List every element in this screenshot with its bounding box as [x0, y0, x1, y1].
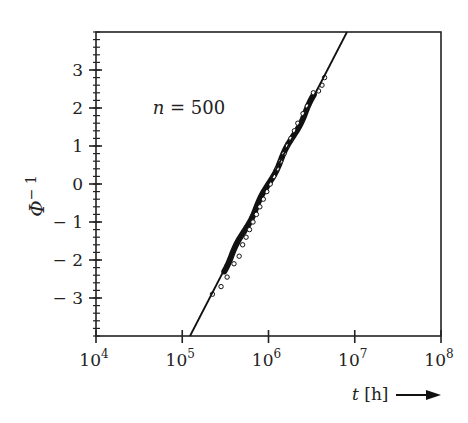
sample-point	[232, 262, 236, 266]
x-tick-label: 106	[252, 347, 281, 370]
sample-point	[219, 284, 223, 288]
y-tick-label: 0	[72, 174, 83, 194]
annotation-n: n = 500	[153, 97, 225, 118]
sample-point	[225, 275, 229, 279]
sample-point	[237, 254, 241, 258]
axis-ticks	[89, 70, 441, 343]
y-tick-label: − 2	[53, 250, 83, 270]
y-tick-label: 3	[72, 60, 83, 80]
sample-point	[247, 227, 251, 231]
x-tick-label: 104	[79, 347, 109, 370]
x-tick-label: 108	[424, 347, 453, 370]
sample-point	[251, 220, 255, 224]
x-tick-label: 107	[338, 347, 367, 370]
x-axis-label: t [h]	[352, 384, 388, 404]
sample-point	[240, 243, 244, 247]
fit-line	[190, 32, 347, 336]
sample-point	[254, 212, 258, 216]
probability-plot: − 3− 2− 10123104105106107108 n = 500 Φ− …	[0, 0, 468, 423]
y-tick-label: 2	[72, 98, 83, 118]
y-tick-label: 1	[72, 136, 83, 156]
x-axis-arrow-icon	[396, 390, 441, 400]
y-tick-label: − 1	[53, 212, 83, 232]
sample-point	[244, 235, 248, 239]
y-tick-label: − 3	[53, 288, 83, 308]
y-axis-label: Φ− 1	[23, 175, 49, 217]
x-tick-label: 105	[166, 347, 195, 370]
